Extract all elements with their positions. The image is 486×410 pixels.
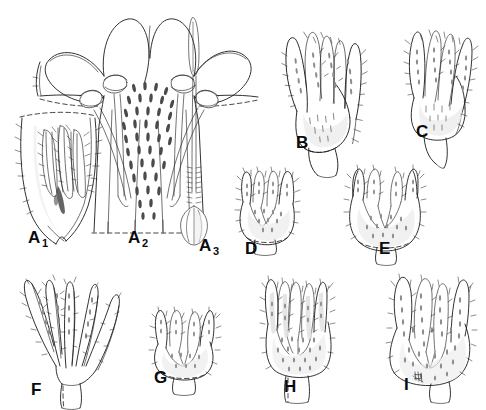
figure-label-E: E [379,239,390,258]
figure-label-F: F [31,380,41,399]
figure-label-G: G [154,368,167,387]
figure-sublabel-A2: 2 [142,237,148,249]
figure-label-A1: A [28,228,40,247]
plate-canvas: A 1 [0,0,486,410]
figure-sublabel-A3: 3 [213,245,219,257]
figure-label-I: I [404,375,409,394]
illustration-plate: A 1 [0,0,486,410]
figure-label-A3: A [199,236,211,255]
figure-label-C: C [416,122,428,141]
figure-label-D: D [245,239,257,258]
figure-label-A2: A [128,228,140,247]
figure-sublabel-A1: 1 [42,237,48,249]
figure-label-H: H [284,377,296,396]
figure-label-B: B [296,133,308,152]
